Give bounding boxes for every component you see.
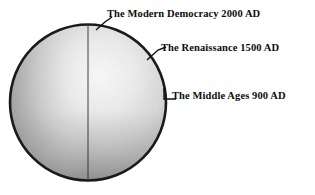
figure-canvas: The Modern Democracy 2000 AD The Renaiss… <box>0 0 315 195</box>
callout-label-renaissance: The Renaissance 1500 AD <box>161 42 279 54</box>
callout-label-modern-democracy: The Modern Democracy 2000 AD <box>107 8 260 20</box>
callout-label-middle-ages: The Middle Ages 900 AD <box>172 90 286 102</box>
